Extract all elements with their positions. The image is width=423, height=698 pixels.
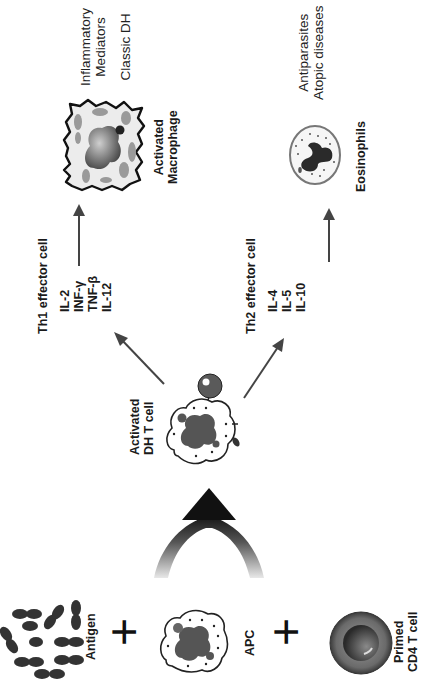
th1-cytokine: IL-12 [100,238,114,312]
plus-sign-1: + [100,618,148,646]
th2-cytokine: IL-10 [294,238,308,312]
th1-title: Th1 effector cell [36,238,50,334]
th2-title: Th2 effector cell [244,238,258,334]
activated-macrophage-label: Activated Macrophage [152,110,180,184]
th2-outcome-block: Antiparasites Atopic diseases [296,5,326,100]
th2-cytokine: IL-4 [266,238,280,312]
outcome-classic-dh: Classic DH [118,8,133,86]
th1-to-macrophage-arrow [72,202,86,266]
activated-macrophage-icon [62,98,146,192]
th2-effector-block: Th2 effector cell IL-4 IL-5 IL-10 [244,238,308,334]
th2-cytokine: IL-5 [280,238,294,312]
th2-branch-arrow [240,332,290,402]
antigen-label: Antigen [84,613,98,660]
activated-dh-t-cell-icon [148,378,248,470]
outcome-inflammatory: Inflammatory [78,8,93,86]
antigen-presenting-cell-icon [158,606,230,676]
primed-cell-label: Primed CD4 T cell [392,612,420,672]
outcome-atopic-diseases: Atopic diseases [311,5,326,100]
dh-pathway-diagram: Antigen + APC + Primed CD4 T cell [0,0,423,698]
eosinophil-icon [288,124,342,186]
th1-cytokine: IL-2 [58,238,72,312]
activated-dh-t-cell-label: Activated DH T cell [128,399,156,455]
outcome-antiparasites: Antiparasites [296,5,311,100]
eosinophils-label: Eosinophils [354,121,368,192]
th2-to-eosinophil-arrow [322,206,336,262]
antigen-cluster-icon [2,598,80,682]
th1-branch-arrow [110,328,170,388]
th1-outcome-block: Inflammatory Mediators Classic DH [78,8,133,86]
th1-cytokine: TNF-β [86,238,100,312]
plus-sign-2: + [262,618,310,646]
merging-arrow-icon [150,486,268,578]
outcome-mediators: Mediators [93,8,108,86]
apc-label: APC [243,630,257,656]
primed-cd4-t-cell-icon [328,610,394,676]
